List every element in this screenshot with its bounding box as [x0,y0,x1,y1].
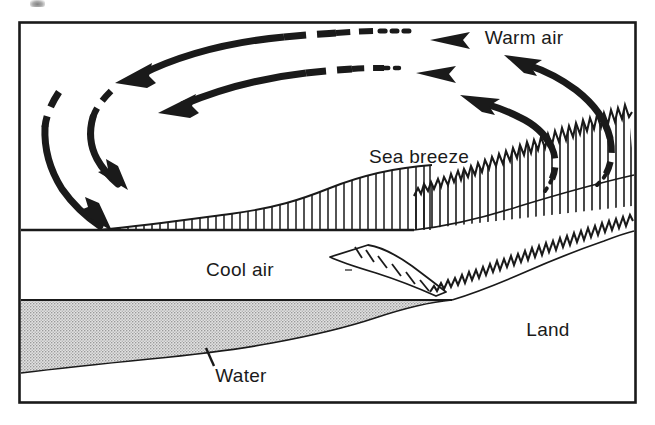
label-warm-air: Warm air [485,27,564,48]
label-sea-breeze: Sea breeze [369,146,469,167]
label-cool-air: Cool air [206,259,274,280]
sea-breeze-diagram: Warm air Sea breeze Cool air Land Water [0,0,655,425]
label-land: Land [526,319,569,340]
label-water: Water [215,365,267,386]
diagram-root: Warm air Sea breeze Cool air Land Water [0,0,655,425]
